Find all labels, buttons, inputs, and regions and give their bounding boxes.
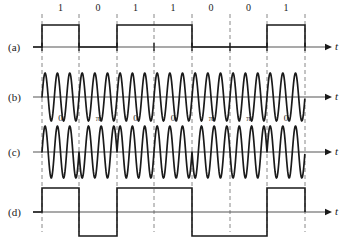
- time-axis-label-bipolar-nrz-signal: t: [335, 205, 338, 217]
- phase-value-label: 0: [133, 113, 138, 123]
- bit-value-label: 0: [209, 2, 214, 13]
- phase-value-label: 0: [284, 113, 289, 123]
- time-axis-label-binary-data-signal: t: [335, 40, 338, 52]
- time-axis-arrowhead: [325, 149, 332, 155]
- phase-value-label: 0: [171, 113, 176, 123]
- row-label-psk-modulated-signal: (c): [8, 146, 20, 158]
- time-axis-label-carrier-signal: t: [335, 90, 338, 102]
- signal-waveform-figure: (a)t(b)t(c)t(d)t10110010π00ππ0: [0, 0, 346, 241]
- bit-value-label: 1: [58, 2, 63, 13]
- phase-value-label: π: [96, 113, 101, 123]
- waveform-a-binary-data: [33, 25, 305, 47]
- time-axis-arrowhead: [325, 44, 332, 50]
- phase-value-label: 0: [58, 113, 63, 123]
- bit-value-label: 0: [96, 2, 101, 13]
- phase-value-label: π: [209, 113, 214, 123]
- bit-value-label: 1: [171, 2, 176, 13]
- time-axis-arrowhead: [325, 209, 332, 215]
- row-label-bipolar-nrz-signal: (d): [8, 206, 21, 218]
- time-axis-arrowhead: [325, 94, 332, 100]
- row-label-carrier-signal: (b): [8, 91, 21, 103]
- time-axis-label-psk-modulated-signal: t: [335, 145, 338, 157]
- bit-value-label: 1: [284, 2, 289, 13]
- phase-value-label: π: [246, 113, 251, 123]
- bit-value-label: 0: [246, 2, 251, 13]
- bit-value-label: 1: [133, 2, 138, 13]
- row-label-binary-data-signal: (a): [8, 41, 20, 53]
